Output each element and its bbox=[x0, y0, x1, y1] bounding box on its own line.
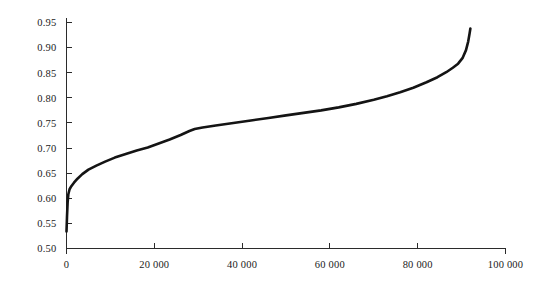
x-tick-label: 0 bbox=[64, 259, 69, 270]
y-tick-label: 0.65 bbox=[37, 168, 56, 179]
y-tick-label: 0.90 bbox=[37, 42, 56, 53]
y-tick-label: 0.95 bbox=[37, 17, 56, 28]
line-chart-figure: 0.500.550.600.650.700.750.800.850.900.95… bbox=[0, 0, 544, 291]
x-tick-label: 100 000 bbox=[488, 259, 524, 270]
y-tick-label: 0.85 bbox=[37, 68, 56, 79]
y-tick-label: 0.75 bbox=[37, 118, 56, 129]
x-tick-label: 20 000 bbox=[139, 259, 169, 270]
x-tick-label: 80 000 bbox=[403, 259, 433, 270]
y-tick-label: 0.60 bbox=[37, 193, 56, 204]
x-tick-label: 40 000 bbox=[227, 259, 257, 270]
x-tick-label: 60 000 bbox=[315, 259, 345, 270]
y-tick-label: 0.55 bbox=[37, 218, 56, 229]
y-tick-label: 0.50 bbox=[37, 243, 56, 254]
y-tick-label: 0.70 bbox=[37, 143, 56, 154]
y-tick-label: 0.80 bbox=[37, 93, 56, 104]
chart-background bbox=[0, 0, 544, 291]
